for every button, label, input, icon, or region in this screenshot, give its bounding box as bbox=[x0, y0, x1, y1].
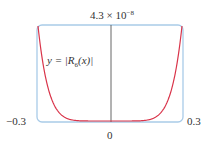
viewing-window-frame bbox=[37, 25, 183, 122]
x-zero-label: 0 bbox=[107, 129, 113, 141]
x-min-label: −0.3 bbox=[6, 115, 26, 127]
chart-plot bbox=[0, 0, 208, 143]
curve-label: y = |R6(x)| bbox=[47, 54, 93, 71]
y-max-label: 4.3 × 10−8 bbox=[80, 7, 144, 21]
x-max-label: 0.3 bbox=[187, 115, 201, 127]
remainder-curve bbox=[38, 26, 182, 121]
